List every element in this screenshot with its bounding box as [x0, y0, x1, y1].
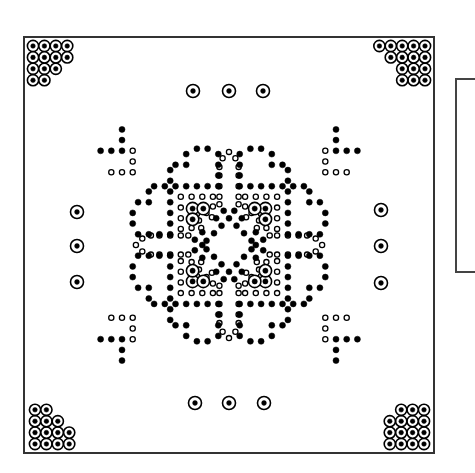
hollow-via [236, 202, 241, 207]
filled-via [285, 199, 291, 205]
filled-via [167, 285, 173, 291]
tee-filled-via [333, 137, 339, 143]
tee-hollow-via [323, 337, 328, 342]
filled-via [215, 333, 221, 339]
filled-via [194, 301, 200, 307]
filled-via [247, 146, 253, 152]
hollow-via [226, 149, 231, 154]
corner-via-drill [399, 419, 404, 424]
filled-via [237, 162, 243, 168]
tee-hollow-via [130, 170, 135, 175]
filled-via [253, 229, 259, 235]
hollow-via [140, 249, 145, 254]
filled-via [290, 301, 296, 307]
corner-via-drill [377, 44, 382, 49]
filled-via [239, 215, 245, 221]
hollow-via [178, 252, 183, 257]
tee-filled-via [354, 336, 360, 342]
filled-via [253, 242, 259, 248]
filled-via [167, 189, 173, 195]
mount-pad-drill [262, 401, 267, 406]
hollow-via [275, 194, 280, 199]
hollow-via [253, 194, 258, 199]
mount-pad-drill [75, 244, 80, 249]
hollow-via [243, 194, 248, 199]
hollow-via [220, 156, 225, 161]
filled-via [247, 338, 253, 344]
corner-via-drill [54, 55, 59, 60]
mount-pad-drill [75, 280, 80, 285]
filled-via [237, 322, 243, 328]
corner-via-drill [422, 419, 427, 424]
board-outline [24, 37, 434, 453]
filled-via [173, 162, 179, 168]
hollow-via [226, 336, 231, 341]
filled-via [226, 269, 232, 275]
hollow-via [233, 329, 238, 334]
filled-via [194, 146, 200, 152]
filled-via [241, 254, 247, 260]
hollow-via [200, 291, 205, 296]
filled-via [296, 253, 302, 259]
filled-via [156, 253, 162, 259]
tee-hollow-via [323, 148, 328, 153]
filled-via [269, 322, 275, 328]
filled-via [306, 253, 312, 259]
corner-via-drill [67, 442, 72, 447]
hollow-via [178, 216, 183, 221]
mount-pad-drill [191, 89, 196, 94]
hollow-via [210, 194, 215, 199]
hollow-via [236, 291, 241, 296]
filled-via [135, 231, 141, 237]
filled-via [234, 223, 240, 229]
corner-via-drill [54, 44, 59, 49]
hollow-via [275, 216, 280, 221]
tee-hollow-via [130, 148, 135, 153]
filled-via [247, 301, 253, 307]
tee-filled-via [108, 148, 114, 154]
tee-hollow-via [130, 315, 135, 320]
filled-via [234, 261, 240, 267]
filled-via [317, 199, 323, 205]
mount-pad-drill [261, 89, 266, 94]
corner-via-drill [400, 44, 405, 49]
hollow-via [267, 252, 272, 257]
corner-via-drill [422, 408, 427, 413]
corner-via-drill [56, 419, 61, 424]
filled-via [306, 189, 312, 195]
tee-filled-via [333, 336, 339, 342]
tee-filled-via [98, 148, 104, 154]
corner-via-drill [423, 78, 428, 83]
corner-via-drill [410, 419, 415, 424]
corner-via-drill [31, 78, 36, 83]
filled-via [213, 215, 219, 221]
corner-via-drill [44, 430, 49, 435]
filled-via [167, 253, 173, 259]
mount-pad-drill [379, 281, 384, 286]
filled-via [237, 151, 243, 157]
filled-via [151, 301, 157, 307]
corner-via-drill [423, 44, 428, 49]
filled-via [130, 221, 136, 227]
filled-via [192, 247, 198, 253]
tee-hollow-via [109, 170, 114, 175]
filled-via [146, 296, 152, 302]
filled-via [306, 199, 312, 205]
corner-via-drill [399, 442, 404, 447]
filled-via [269, 183, 275, 189]
filled-via [253, 255, 259, 261]
filled-via [285, 296, 291, 302]
filled-via [269, 301, 275, 307]
filled-via [135, 285, 141, 291]
hollow-via [236, 283, 241, 288]
corner-via-drill [65, 44, 70, 49]
hollow-via [210, 281, 215, 286]
ring-pad-drill [252, 279, 257, 284]
filled-via [306, 231, 312, 237]
mount-pad-drill [379, 244, 384, 249]
filled-via [237, 183, 243, 189]
side-panel-frame [455, 78, 475, 273]
filled-via [285, 231, 291, 237]
filled-via [237, 301, 243, 307]
tee-filled-via [344, 336, 350, 342]
